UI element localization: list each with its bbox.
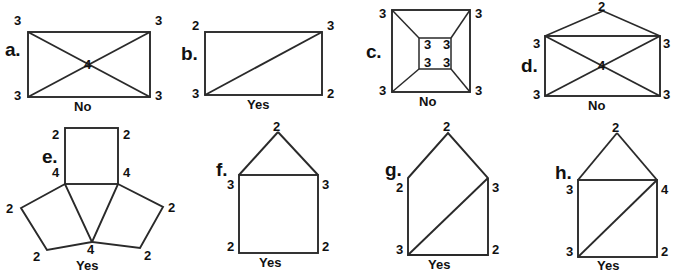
figure-b-degree-top-right: 3 (327, 19, 334, 32)
figure-d-flap-left (545, 11, 603, 36)
figure-f-square (239, 175, 318, 253)
figure-e-right-square (92, 184, 163, 248)
figure-c-connector-bottom-right (451, 69, 470, 92)
figure-d-drawing (545, 11, 660, 96)
figure-c-degree-outer-top-right: 3 (475, 7, 482, 20)
figure-h-degree-top-left: 3 (566, 183, 573, 196)
figure-a-letter: a. (5, 40, 20, 59)
figure-b-degree-bottom-right: 2 (327, 87, 334, 100)
figure-e-top-square (65, 128, 118, 184)
figure-d-degree-apex: 2 (598, 0, 605, 13)
figure-a-degree-top-left: 3 (14, 14, 21, 27)
figure-f-degree-bottom-right: 2 (322, 240, 329, 253)
figures-drawing (0, 0, 675, 274)
figure-f-degree-apex: 2 (273, 120, 280, 133)
figure-d-degree-top-right: 3 (663, 37, 670, 50)
figure-g-verdict: Yes (428, 258, 450, 271)
figure-e-degree-top-square-top-left: 2 (52, 128, 59, 141)
figure-e-degree-left-square-left: 2 (6, 202, 13, 215)
figure-f-roof-left (239, 132, 278, 175)
figure-g-diagonal (408, 178, 488, 255)
figure-c-connector-top-right (451, 10, 470, 38)
figure-h-degree-apex: 2 (612, 121, 619, 134)
figure-h-drawing (578, 133, 657, 257)
figure-b-rectangle (205, 32, 322, 95)
figure-g-pentagon (408, 133, 488, 255)
figure-g-degree-top-right: 3 (492, 181, 499, 194)
figure-a-degree-bottom-left: 3 (14, 89, 21, 102)
figure-c-connector-bottom-left (392, 69, 419, 92)
figure-c-letter: c. (366, 42, 381, 61)
figure-h-degree-bottom-right: 2 (661, 245, 668, 258)
figure-c-degree-inner-top-left: 3 (424, 38, 431, 51)
figure-a-degree-center: 4 (84, 58, 91, 71)
figure-b-diagonal (205, 32, 322, 95)
figure-b-letter: b. (181, 44, 198, 63)
figure-c-connector-top-left (392, 10, 419, 38)
figure-c-degree-outer-bottom-left: 3 (379, 84, 386, 97)
figure-h-diagonal (578, 180, 657, 257)
figure-e-degree-top-square-bottom-left: 4 (52, 166, 59, 179)
figure-e-letter: e. (42, 147, 57, 166)
figure-c-outer-square (392, 10, 470, 92)
figure-g-degree-top-left: 2 (396, 181, 403, 194)
figure-c-degree-inner-bottom-left: 3 (424, 56, 431, 69)
figure-c-degree-inner-top-right: 3 (443, 38, 450, 51)
figure-h-letter: h. (555, 163, 572, 182)
figure-d-letter: d. (521, 56, 538, 75)
figure-b-degree-bottom-left: 3 (192, 87, 199, 100)
figure-d-degree-center: 4 (598, 59, 605, 72)
figure-a-degree-top-right: 3 (155, 14, 162, 27)
figure-d-degree-bottom-left: 3 (533, 88, 540, 101)
figure-f-verdict: Yes (259, 256, 281, 269)
figure-h-square (578, 180, 657, 257)
figure-c-degree-outer-bottom-right: 3 (475, 84, 482, 97)
figure-a-verdict: No (74, 100, 91, 113)
figure-f-degree-top-left: 3 (227, 178, 234, 191)
figure-a-degree-bottom-right: 3 (155, 89, 162, 102)
figure-e-degree-left-square-bottom: 2 (33, 250, 40, 263)
figure-c-drawing (392, 10, 470, 92)
figure-c-verdict: No (419, 95, 436, 108)
figure-e-degree-top-square-top-right: 2 (123, 128, 130, 141)
figure-e-left-square (21, 184, 92, 250)
figure-c-degree-inner-bottom-right: 3 (443, 56, 450, 69)
figure-g-degree-bottom-right: 2 (492, 243, 499, 256)
figure-g-degree-apex: 2 (443, 120, 450, 133)
figure-b-verdict: Yes (247, 98, 269, 111)
figure-e-degree-right-square-right: 2 (168, 201, 175, 214)
figure-h-degree-bottom-left: 3 (566, 245, 573, 258)
figure-h-roof-right (617, 133, 657, 180)
figure-g-degree-bottom-left: 3 (396, 243, 403, 256)
figure-f-roof-right (278, 132, 318, 175)
figure-board: a. 3 3 4 3 3 No b. 2 3 3 2 Yes c. 3 3 3 … (0, 0, 675, 274)
figure-f-drawing (239, 132, 318, 253)
figure-d-degree-bottom-right: 3 (663, 88, 670, 101)
figure-g-drawing (408, 133, 488, 255)
figure-e-degree-center-junction: 4 (87, 243, 94, 256)
figure-e-verdict: Yes (76, 259, 98, 272)
figure-c-degree-outer-top-left: 3 (379, 7, 386, 20)
figure-h-degree-top-right: 4 (661, 183, 668, 196)
figure-d-degree-top-left: 3 (533, 37, 540, 50)
figure-h-verdict: Yes (597, 259, 619, 272)
figure-f-degree-bottom-left: 2 (227, 240, 234, 253)
figure-f-letter: f. (216, 160, 227, 179)
figure-f-degree-top-right: 3 (322, 178, 329, 191)
figure-g-letter: g. (385, 160, 402, 179)
figure-d-flap-right (603, 11, 660, 36)
figure-e-degree-top-square-bottom-right: 4 (123, 166, 130, 179)
figure-b-drawing (205, 32, 322, 95)
figure-e-degree-right-square-bottom: 2 (144, 249, 151, 262)
figure-d-verdict: No (588, 99, 605, 112)
figure-h-roof-left (578, 133, 617, 180)
figure-b-degree-top-left: 2 (192, 19, 199, 32)
